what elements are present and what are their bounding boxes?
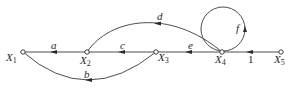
edge-label-a: a [51, 39, 57, 51]
arrow-f-icon [243, 26, 247, 32]
arrow-d-icon [154, 22, 161, 26]
node-label-x5: X5 [273, 53, 285, 67]
node-x1 [21, 50, 25, 54]
edge-label-b: b [84, 68, 90, 80]
node-label-x3: X3 [157, 51, 169, 65]
edge-label-1: 1 [248, 53, 254, 65]
node-label-x1: X1 [5, 51, 17, 65]
edge-label-e: e [188, 39, 193, 51]
edge-label-f: f [236, 22, 241, 34]
signal-flow-graph: X1 X2 X3 X4 X5 a c e 1 b d f [0, 0, 294, 90]
node-label-x4: X4 [214, 53, 226, 67]
edge-label-c: c [120, 39, 125, 51]
node-label-x2: X2 [79, 54, 91, 68]
edge-f [201, 7, 247, 51]
edge-d [87, 22, 222, 53]
edge-label-d: d [157, 10, 163, 22]
